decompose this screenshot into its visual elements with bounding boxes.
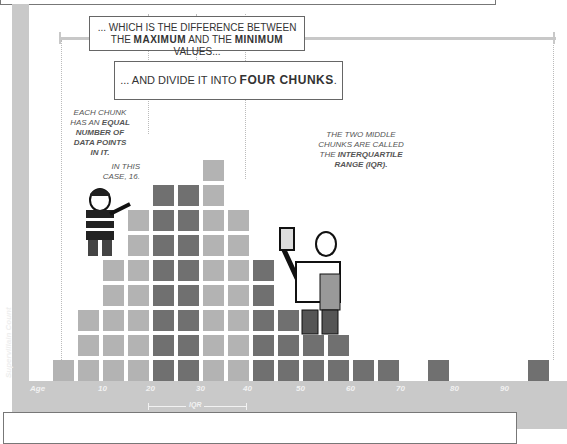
histogram-cell: [103, 360, 124, 381]
histogram-cell: [178, 360, 199, 381]
histogram-cell: [253, 335, 274, 356]
range-callout: ... WHICH IS THE DIFFERENCE BETWEEN THE …: [89, 16, 305, 51]
x-tick-label: 30: [196, 384, 205, 393]
histogram-cell: [153, 260, 174, 281]
histogram-cell: [228, 285, 249, 306]
histogram-cell: [203, 235, 224, 256]
histogram-cell: [253, 260, 274, 281]
histogram-cell: [303, 360, 324, 381]
histogram-cell: [103, 335, 124, 356]
cartoon-villain-right-icon: [276, 226, 356, 336]
histogram-cell: [153, 310, 174, 331]
histogram-cell: [203, 285, 224, 306]
histogram-cell: [428, 360, 449, 381]
iqr-label: IQR: [186, 401, 204, 408]
histogram-cell: [128, 260, 149, 281]
histogram-cell: [153, 335, 174, 356]
bottom-panel-border: [3, 412, 517, 444]
histogram-cell: [528, 360, 549, 381]
equal-chunk-note: EACH CHUNK HAS AN EQUAL NUMBER OF DATA P…: [60, 108, 140, 158]
histogram-cell: [228, 360, 249, 381]
x-tick-label: 80: [450, 384, 459, 393]
histogram-cell: [203, 310, 224, 331]
histogram-cell: [128, 285, 149, 306]
four-chunks-word: FOUR CHUNKS: [240, 73, 334, 87]
histogram-cell: [78, 310, 99, 331]
histogram-cell: [78, 360, 99, 381]
histogram-cell: [228, 310, 249, 331]
histogram-cell: [128, 310, 149, 331]
histogram-cell: [78, 335, 99, 356]
cartoon-villain-left-icon: [80, 186, 134, 258]
y-axis-band: [12, 4, 29, 384]
histogram-cell: [103, 285, 124, 306]
histogram-cell: [178, 285, 199, 306]
iqr-note: THE TWO MIDDLE CHUNKS ARE CALLED THE INT…: [302, 130, 420, 170]
range-cap-min: [59, 32, 61, 44]
histogram-cell: [178, 260, 199, 281]
iqr-cap-left: [148, 403, 149, 410]
histogram-cell: [228, 210, 249, 231]
histogram-cell: [253, 360, 274, 381]
x-tick-label: 20: [146, 384, 155, 393]
histogram-cell: [153, 235, 174, 256]
range-cap-max: [553, 32, 555, 44]
min-guide-line: [61, 40, 62, 360]
minimum-word: MINIMUM: [235, 34, 284, 45]
chunks-callout: ... AND DIVIDE IT INTO FOUR CHUNKS.: [114, 61, 343, 100]
top-panel-border: [0, 0, 496, 5]
x-tick-label: 50: [296, 384, 305, 393]
histogram-cell: [278, 360, 299, 381]
x-tick-label: 60: [346, 384, 355, 393]
histogram-cell: [103, 310, 124, 331]
maximum-word: MAXIMUM: [134, 34, 186, 45]
x-tick-label: 90: [500, 384, 509, 393]
histogram-cell: [203, 260, 224, 281]
histogram-cell: [203, 185, 224, 206]
histogram-cell: [228, 260, 249, 281]
histogram-cell: [153, 360, 174, 381]
histogram-cell: [128, 335, 149, 356]
histogram-cell: [128, 360, 149, 381]
histogram-cell: [53, 360, 74, 381]
max-guide-line: [553, 40, 554, 360]
y-axis-title: Supervillain Count: [4, 307, 13, 378]
histogram-cell: [253, 310, 274, 331]
histogram-cell: [178, 235, 199, 256]
histogram-cell: [203, 335, 224, 356]
histogram-cell: [278, 335, 299, 356]
histogram-cell: [203, 360, 224, 381]
range-callout-line2: THE MAXIMUM AND THE MINIMUM VALUES...: [90, 34, 304, 58]
histogram-cell: [178, 185, 199, 206]
histogram-cell: [203, 160, 224, 181]
histogram-cell: [378, 360, 399, 381]
range-callout-line1: ... WHICH IS THE DIFFERENCE BETWEEN: [90, 22, 304, 34]
histogram-cell: [228, 335, 249, 356]
histogram-cell: [203, 210, 224, 231]
x-tick-label: 70: [396, 384, 405, 393]
histogram-cell: [253, 285, 274, 306]
histogram-cell: [328, 335, 349, 356]
iqr-cap-right: [246, 403, 247, 410]
x-axis-title: Age: [30, 384, 45, 393]
histogram-cell: [153, 285, 174, 306]
histogram-cell: [178, 310, 199, 331]
case-note: IN THIS CASE, 16.: [100, 162, 140, 182]
histogram-cell: [153, 210, 174, 231]
x-tick-label: 40: [243, 384, 252, 393]
histogram-cell: [228, 235, 249, 256]
histogram-cell: [178, 210, 199, 231]
histogram-cell: [303, 335, 324, 356]
histogram-cell: [153, 185, 174, 206]
histogram-cell: [103, 260, 124, 281]
histogram-cell: [328, 360, 349, 381]
x-tick-label: 10: [98, 384, 107, 393]
histogram-cell: [178, 335, 199, 356]
histogram-cell: [353, 360, 374, 381]
